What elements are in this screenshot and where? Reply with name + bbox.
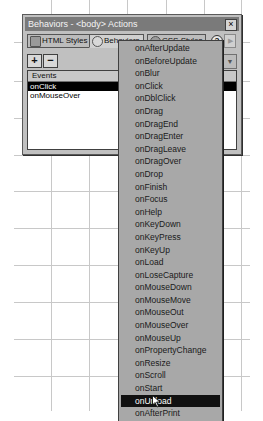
- menu-item-onscroll[interactable]: onScroll: [119, 369, 222, 382]
- remove-behavior-button[interactable]: −: [43, 54, 58, 68]
- menu-item-onkeydown[interactable]: onKeyDown: [119, 218, 222, 231]
- menu-item-ondrop[interactable]: onDrop: [119, 168, 222, 181]
- menu-item-onlosecapture[interactable]: onLoseCapture: [119, 269, 222, 282]
- menu-item-ondragenter[interactable]: onDragEnter: [119, 130, 222, 143]
- panel-menu-arrow-button[interactable]: ▶: [224, 34, 236, 48]
- menu-item-onclick[interactable]: onClick: [119, 80, 222, 93]
- menu-item-onmousemove[interactable]: onMouseMove: [119, 294, 222, 307]
- tab-label: HTML Styles: [42, 36, 88, 45]
- menu-item-ondrag[interactable]: onDrag: [119, 105, 222, 118]
- gear-icon: [92, 36, 103, 47]
- panel-titlebar[interactable]: Behaviors - <body> Actions ×: [25, 17, 239, 31]
- menu-item-onresize[interactable]: onResize: [119, 357, 222, 370]
- mouse-cursor-icon: [152, 395, 161, 408]
- menu-item-onpropertychange[interactable]: onPropertyChange: [119, 344, 222, 357]
- menu-item-onafterupdate[interactable]: onAfterUpdate: [119, 42, 222, 55]
- menu-item-ondragleave[interactable]: onDragLeave: [119, 143, 222, 156]
- add-behavior-button[interactable]: +: [27, 54, 42, 68]
- menu-item-ondragover[interactable]: onDragOver: [119, 155, 222, 168]
- menu-item-onfocus[interactable]: onFocus: [119, 193, 222, 206]
- html-styles-icon: [30, 36, 41, 47]
- menu-item-ondragend[interactable]: onDragEnd: [119, 118, 222, 131]
- menu-item-onafterprint[interactable]: onAfterPrint: [119, 407, 222, 420]
- menu-item-onhelp[interactable]: onHelp: [119, 206, 222, 219]
- menu-item-onfinish[interactable]: onFinish: [119, 181, 222, 194]
- menu-item-onmousedown[interactable]: onMouseDown: [119, 281, 222, 294]
- menu-item-onmouseover[interactable]: onMouseOver: [119, 319, 222, 332]
- menu-item-onblur[interactable]: onBlur: [119, 67, 222, 80]
- menu-item-onkeyup[interactable]: onKeyUp: [119, 244, 222, 257]
- tab-html-styles[interactable]: HTML Styles: [27, 34, 92, 48]
- menu-item-onbeforeupdate[interactable]: onBeforeUpdate: [119, 55, 222, 68]
- events-dropdown-button[interactable]: ▼: [223, 54, 237, 69]
- event-dropdown-menu: onAfterUpdate onBeforeUpdate onBlur onCl…: [118, 40, 223, 421]
- menu-item-onunload[interactable]: onUnload: [121, 395, 220, 408]
- close-button[interactable]: ×: [225, 19, 237, 31]
- menu-item-onstart[interactable]: onStart: [119, 382, 222, 395]
- panel-title: Behaviors - <body> Actions: [28, 19, 138, 29]
- menu-item-ondblclick[interactable]: onDblClick: [119, 92, 222, 105]
- menu-item-onmouseup[interactable]: onMouseUp: [119, 332, 222, 345]
- menu-item-onload[interactable]: onLoad: [119, 256, 222, 269]
- menu-item-onkeypress[interactable]: onKeyPress: [119, 231, 222, 244]
- menu-item-onmouseout[interactable]: onMouseOut: [119, 306, 222, 319]
